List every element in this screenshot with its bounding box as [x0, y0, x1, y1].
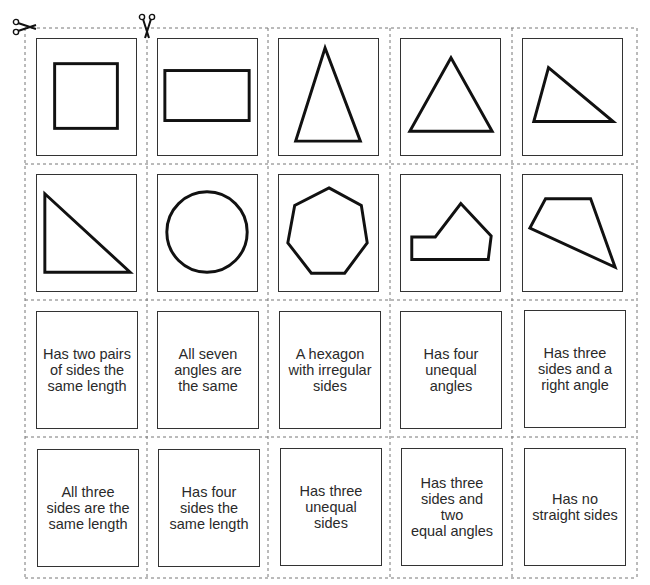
shape-card-equilateral-triangle[interactable] [400, 38, 501, 156]
scalene-triangle-shape [523, 39, 622, 155]
card-text: All seven angles are the same [168, 346, 248, 394]
circle-shape [158, 175, 257, 291]
text-card[interactable]: Has four sides the same length [158, 449, 260, 567]
text-card[interactable]: Has two pairs of sides the same length [36, 311, 138, 429]
card-text: Has four unequal angles [418, 346, 485, 394]
card-text: All three sides are the same length [40, 484, 135, 532]
shape-card-irregular-quadrilateral[interactable] [522, 174, 623, 292]
rectangle-shape [158, 39, 257, 155]
text-card[interactable]: Has three sides and a right angle [524, 310, 626, 428]
text-card[interactable]: Has four unequal angles [400, 311, 502, 429]
shape-card-scalene-triangle[interactable] [522, 38, 623, 156]
text-card[interactable]: Has no straight sides [524, 448, 626, 566]
card-text: Has three sides and a right angle [532, 345, 618, 393]
shape-card-square[interactable] [36, 38, 137, 156]
right-triangle-shape [37, 175, 136, 291]
card-text: Has three sides and two equal angles [402, 475, 502, 539]
text-card[interactable]: All seven angles are the same [157, 311, 259, 429]
card-text: Has two pairs of sides the same length [37, 346, 137, 394]
text-card[interactable]: Has three sides and two equal angles [401, 448, 503, 566]
text-card[interactable]: Has three unequal sides [280, 448, 382, 566]
shape-card-right-triangle[interactable] [36, 174, 137, 292]
shape-card-circle[interactable] [157, 174, 258, 292]
equilateral-triangle-shape [401, 39, 500, 155]
shape-card-rectangle[interactable] [157, 38, 258, 156]
text-card[interactable]: All three sides are the same length [37, 449, 139, 567]
text-card[interactable]: A hexagon with irregular sides [279, 311, 381, 429]
card-text: A hexagon with irregular sides [283, 346, 378, 394]
isosceles-triangle-shape [279, 39, 378, 155]
scissors-icon [138, 13, 156, 39]
card-text: Has four sides the same length [164, 484, 255, 532]
heptagon-shape [279, 175, 378, 291]
square-shape [37, 39, 136, 155]
irregular-quadrilateral-shape [523, 175, 622, 291]
irregular-hexagon-shape [401, 175, 500, 291]
scissors-icon [12, 18, 38, 36]
worksheet: Has two pairs of sides the same length A… [0, 0, 650, 585]
shape-card-tall-triangle[interactable] [278, 38, 379, 156]
shape-card-irregular-hexagon[interactable] [400, 174, 501, 292]
shape-card-heptagon[interactable] [278, 174, 379, 292]
card-text: Has three unequal sides [294, 483, 369, 531]
card-text: Has no straight sides [526, 491, 623, 523]
